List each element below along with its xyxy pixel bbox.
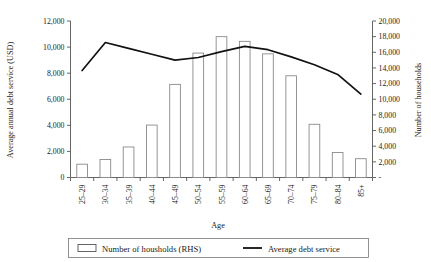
bar — [146, 125, 157, 177]
right-tick-label: 8,000 — [379, 111, 397, 120]
category-label: 45–49 — [171, 184, 180, 204]
category-label: 30–34 — [101, 184, 110, 204]
bar — [356, 159, 367, 178]
right-tick-label: 16,000 — [379, 48, 401, 57]
left-tick-label: 6,000 — [47, 95, 65, 104]
bar — [216, 37, 227, 178]
right-tick-label: 2,000 — [379, 158, 397, 167]
category-label: 85+ — [357, 184, 366, 197]
right-tick-label: 10,000 — [379, 95, 401, 104]
left-tick-label: 8,000 — [47, 69, 65, 78]
right-tick-label: 14,000 — [379, 64, 401, 73]
category-label: 60–64 — [241, 184, 250, 204]
category-label: 35–39 — [125, 184, 134, 204]
chart-figure: Average annual debt service (USD) Number… — [0, 0, 431, 262]
bar — [263, 54, 274, 178]
right-tick-label: 4,000 — [379, 142, 397, 151]
bar — [286, 76, 297, 178]
bar — [239, 41, 250, 177]
category-label: 75–79 — [310, 184, 319, 204]
x-axis-title: Age — [211, 221, 225, 230]
bar — [332, 152, 343, 177]
legend-swatch-bars — [78, 245, 96, 252]
right-tick-label: 18,000 — [379, 32, 401, 41]
legend-label-bars: Number of housholds (RHS) — [102, 244, 201, 254]
right-tick-label: 20,000 — [379, 17, 401, 26]
category-label: 50–54 — [194, 184, 203, 204]
bar — [123, 147, 134, 178]
left-axis-title: Average annual debt service (USD) — [6, 42, 15, 159]
left-tick-label: 10,000 — [43, 43, 65, 52]
left-tick-label: 2,000 — [47, 147, 65, 156]
bar — [100, 160, 111, 178]
right-tick-label: - — [379, 173, 382, 182]
category-label: 40–44 — [148, 184, 157, 204]
bar — [193, 53, 204, 177]
right-axis-title: Number of households — [414, 63, 423, 138]
right-tick-label: 12,000 — [379, 79, 401, 88]
bar — [309, 124, 320, 177]
category-label: 65–69 — [264, 184, 273, 204]
category-label: 80–84 — [334, 184, 343, 204]
category-label: 70–74 — [287, 184, 296, 204]
category-label: 55–59 — [218, 184, 227, 204]
bar — [77, 164, 88, 177]
left-tick-label: 12,000 — [43, 17, 65, 26]
right-tick-label: 6,000 — [379, 126, 397, 135]
legend-label-line: Average debt service — [268, 244, 340, 254]
bar — [170, 84, 181, 177]
left-tick-label: 4,000 — [47, 121, 65, 130]
left-tick-label: 0 — [61, 173, 65, 182]
category-label: 25–29 — [78, 184, 87, 204]
